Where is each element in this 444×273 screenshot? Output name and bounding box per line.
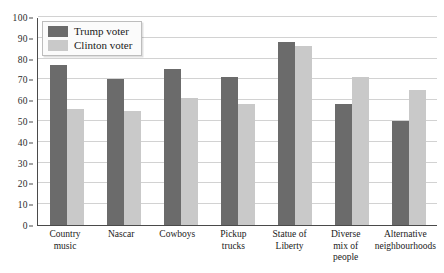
bar xyxy=(409,90,426,225)
bar xyxy=(335,104,352,225)
bar xyxy=(50,65,67,225)
x-axis: CountrymusicNascarCowboysPickuptrucksSta… xyxy=(37,229,437,264)
y-axis-tick-mark xyxy=(29,18,33,19)
x-axis-tick-label: Nascar xyxy=(93,229,149,264)
bar xyxy=(107,79,124,225)
bar-chart: 0102030405060708090100 CountrymusicNasca… xyxy=(0,0,444,273)
x-axis-tick-label: Pickuptrucks xyxy=(205,229,261,264)
y-axis-tick-label: 30 xyxy=(18,159,28,169)
bar xyxy=(392,121,409,225)
chart-legend: Trump voter Clinton voter xyxy=(42,21,142,56)
y-axis-tick-label: 40 xyxy=(18,138,28,148)
y-axis-tick-label: 90 xyxy=(18,34,28,44)
bar xyxy=(278,42,295,225)
legend-swatch-clinton-icon xyxy=(48,40,68,51)
y-axis-tick-label: 100 xyxy=(13,13,28,23)
y-axis-tick-label: 0 xyxy=(23,221,28,231)
legend-swatch-trump-icon xyxy=(48,26,68,37)
bar xyxy=(352,77,369,225)
legend-label-clinton: Clinton voter xyxy=(74,39,132,51)
bar-group xyxy=(380,18,437,225)
y-axis-tick-mark xyxy=(29,163,33,164)
y-axis-tick-mark xyxy=(29,205,33,206)
x-axis-tick-label: Alternativeneighbourhoods xyxy=(374,229,437,264)
y-axis-tick-mark xyxy=(29,142,33,143)
y-axis-tick-label: 70 xyxy=(18,75,28,85)
gridline xyxy=(38,16,437,17)
bar xyxy=(164,69,181,225)
bar xyxy=(67,109,84,225)
x-axis-tick-label: Diversemix ofpeople xyxy=(318,229,374,264)
y-axis-tick-mark xyxy=(29,184,33,185)
x-axis-tick-label: Countrymusic xyxy=(37,229,93,264)
bar xyxy=(295,46,312,225)
y-axis: 0102030405060708090100 xyxy=(0,18,33,226)
y-axis-tick-mark xyxy=(29,59,33,60)
bar-group xyxy=(323,18,380,225)
y-axis-tick-mark xyxy=(29,80,33,81)
y-axis-tick-label: 80 xyxy=(18,55,28,65)
y-axis-tick-mark xyxy=(29,38,33,39)
y-axis-tick-mark xyxy=(29,122,33,123)
bar xyxy=(124,111,141,225)
y-axis-tick-mark xyxy=(29,101,33,102)
x-axis-tick-label: Cowboys xyxy=(149,229,205,264)
legend-item-trump: Trump voter xyxy=(48,25,132,37)
x-axis-tick-label: Statue ofLiberty xyxy=(262,229,318,264)
legend-item-clinton: Clinton voter xyxy=(48,39,132,51)
bar-group xyxy=(152,18,209,225)
bar-group xyxy=(266,18,323,225)
bar xyxy=(238,104,255,225)
bar xyxy=(221,77,238,225)
bar-group xyxy=(209,18,266,225)
y-axis-tick-label: 60 xyxy=(18,96,28,106)
y-axis-tick-label: 10 xyxy=(18,200,28,210)
y-axis-tick-label: 50 xyxy=(18,117,28,127)
y-axis-tick-label: 20 xyxy=(18,179,28,189)
y-axis-tick-mark xyxy=(29,226,33,227)
legend-label-trump: Trump voter xyxy=(74,25,129,37)
bar xyxy=(181,98,198,225)
